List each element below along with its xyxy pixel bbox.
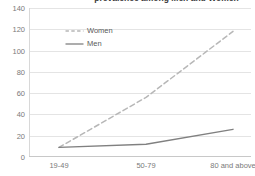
y-axis-tick-label: 80 bbox=[17, 67, 25, 76]
series-lines bbox=[29, 8, 251, 157]
legend-item-men: Men bbox=[65, 38, 127, 49]
legend-label-women: Women bbox=[87, 26, 113, 35]
y-axis-tick-label: 120 bbox=[12, 25, 25, 34]
y-axis-tick-label: 0 bbox=[21, 153, 25, 162]
y-axis-tick-label: 20 bbox=[17, 131, 25, 140]
plot-area: 020406080100120140 Women Men bbox=[29, 8, 251, 157]
chart-legend: Women Men bbox=[65, 25, 127, 51]
x-axis-tick-labels: 19-4950-7980 and above bbox=[29, 161, 251, 175]
legend-label-men: Men bbox=[87, 39, 102, 48]
y-axis-tick-label: 100 bbox=[12, 46, 25, 55]
y-axis-tick-label: 40 bbox=[17, 110, 25, 119]
x-axis-tick-label: 19-49 bbox=[49, 161, 68, 170]
legend-swatch-solid-icon bbox=[65, 40, 84, 48]
y-axis-tick-label: 140 bbox=[12, 4, 25, 13]
y-axis-tick-label: 60 bbox=[17, 89, 25, 98]
series-line-men bbox=[59, 129, 233, 147]
legend-swatch-dashed-icon bbox=[65, 27, 84, 35]
x-axis-tick-label: 50-79 bbox=[136, 161, 155, 170]
line-chart: prevalence among Men and Women 020406080… bbox=[0, 0, 255, 176]
legend-item-women: Women bbox=[65, 25, 127, 36]
chart-title: prevalence among Men and Women bbox=[78, 0, 255, 3]
x-axis-tick-label: 80 and above bbox=[210, 161, 255, 170]
